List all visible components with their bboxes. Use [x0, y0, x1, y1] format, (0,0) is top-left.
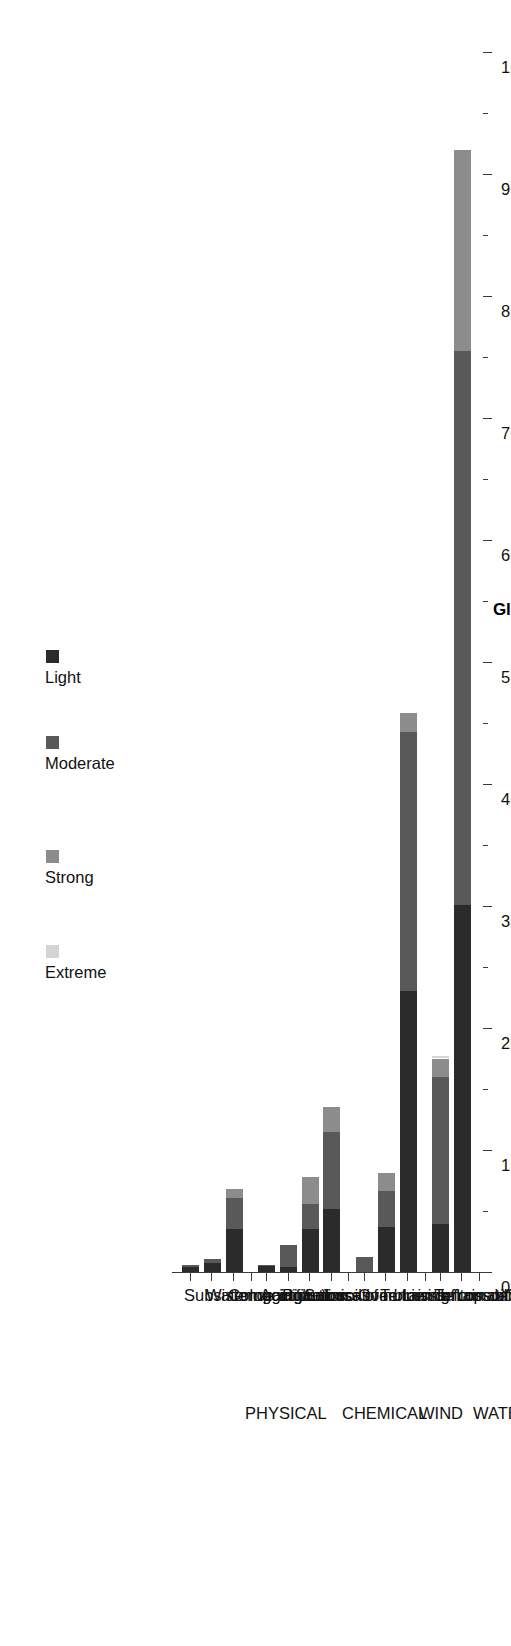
axis-major-tick [483, 1272, 492, 1273]
axis-major-tick [483, 784, 492, 785]
axis-major-tick [483, 906, 492, 907]
axis-major-tick [483, 1150, 492, 1151]
bar-segment-strong [324, 1107, 341, 1131]
bar [302, 0, 319, 1646]
category-group-tick [349, 1273, 350, 1281]
bar [280, 0, 297, 1646]
legend-label-moderate: Moderate [45, 754, 115, 773]
axis-minor-tick [483, 845, 488, 846]
axis-tick-label: 200 [501, 1034, 511, 1053]
bar-segment-strong [400, 713, 417, 731]
bar [204, 0, 221, 1646]
axis-tick-label: 400 [501, 790, 511, 809]
category-group-tick [251, 1273, 252, 1281]
chart-figure: 01002003004005006007008009001000 WATERLo… [0, 0, 511, 1646]
category-label: Subsistence organic soils [184, 1286, 370, 1305]
axis-tick-label: 500 [501, 668, 511, 687]
bar-segment-moderate [356, 1257, 373, 1272]
bar-segment-strong [226, 1189, 243, 1198]
bar-segment-light [280, 1267, 297, 1272]
bar [356, 0, 373, 1646]
axis-tick-label: 900 [501, 180, 511, 199]
bar-segment-strong [302, 1177, 319, 1204]
bar [400, 0, 417, 1646]
bar-segment-moderate [258, 1265, 275, 1266]
bar-segment-strong [454, 150, 471, 351]
axis-tick-label: 600 [501, 546, 511, 565]
axis-minor-tick [483, 357, 488, 358]
bar-segment-light [204, 1263, 221, 1272]
bar-segment-light [324, 1209, 341, 1272]
bar-segment-moderate [378, 1191, 395, 1226]
legend-swatch-strong [46, 850, 59, 863]
bar [432, 0, 449, 1646]
group-label-chemical: CHEMICAL [343, 1404, 428, 1423]
legend-swatch-light [46, 650, 59, 663]
bar-segment-light [378, 1227, 395, 1272]
bar-segment-moderate [226, 1198, 243, 1230]
bar [226, 0, 243, 1646]
axis-minor-tick [483, 723, 488, 724]
axis-major-tick [483, 52, 492, 53]
bar-segment-light [258, 1266, 275, 1272]
group-label-physical: PHYSICAL [245, 1404, 327, 1423]
bar-segment-moderate [182, 1265, 199, 1267]
axis-major-tick [483, 662, 492, 663]
axis-minor-tick [483, 1089, 488, 1090]
axis-minor-tick [483, 479, 488, 480]
bar-segment-light [432, 1224, 449, 1272]
bar-segment-moderate [204, 1259, 221, 1264]
bar [258, 0, 275, 1646]
bar-segment-light [454, 905, 471, 1272]
bar-segment-light [182, 1267, 199, 1272]
axis-minor-tick [483, 235, 488, 236]
bar-segment-light [226, 1229, 243, 1272]
axis-minor-tick [483, 967, 488, 968]
bar [378, 0, 395, 1646]
axis-tick-label: 1000 [501, 58, 511, 77]
legend-label-extreme: Extreme [45, 963, 106, 982]
bar-segment-moderate [324, 1132, 341, 1209]
bar-segment-moderate [302, 1204, 319, 1230]
bar-segment-light [302, 1229, 319, 1272]
axis-major-tick [483, 174, 492, 175]
bar-segment-moderate [454, 351, 471, 905]
axis-major-tick [483, 1028, 492, 1029]
legend-label-strong: Strong [45, 868, 94, 887]
axis-tick-label: 100 [501, 1156, 511, 1175]
axis-minor-tick [483, 113, 488, 114]
legend-swatch-extreme [46, 945, 59, 958]
axis-minor-tick [483, 601, 488, 602]
bar-segment-moderate [400, 732, 417, 992]
bar-segment-moderate [280, 1245, 297, 1267]
bar-segment-strong [378, 1173, 395, 1191]
category-group-tick [425, 1273, 426, 1281]
category-group-tick [479, 1273, 480, 1281]
axis-major-tick [483, 540, 492, 541]
bar [454, 0, 471, 1646]
bar-segment-strong [432, 1059, 449, 1077]
bar [324, 0, 341, 1646]
axis-tick-label: 700 [501, 424, 511, 443]
axis-major-tick [483, 296, 492, 297]
group-label-water: WATER [473, 1404, 511, 1423]
legend-label-light: Light [45, 668, 81, 687]
axis-tick-label: 800 [501, 302, 511, 321]
bar-segment-moderate [432, 1077, 449, 1225]
axis-tick-label: 300 [501, 912, 511, 931]
plot-area: 01002003004005006007008009001000 WATERLo… [0, 0, 511, 1646]
axis-major-tick [483, 418, 492, 419]
bar-segment-light [400, 991, 417, 1272]
bar [182, 0, 199, 1646]
axis-minor-tick [483, 1211, 488, 1212]
bar-segment-extreme [432, 1056, 449, 1058]
legend-swatch-moderate [46, 736, 59, 749]
chart-title: Global soil degradation by type (million… [493, 600, 511, 620]
